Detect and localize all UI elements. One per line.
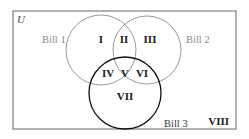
bill-3-label: Bill 3 [164, 118, 188, 129]
region-VI: VI [136, 67, 148, 79]
bill-2-label: Bill 2 [186, 34, 210, 45]
region-VII: VII [117, 90, 134, 102]
region-VIII: VIII [208, 115, 229, 127]
region-III: III [144, 33, 157, 45]
universe-label: U [17, 13, 26, 25]
bill-1-label: Bill 1 [42, 34, 66, 45]
region-II: II [120, 33, 129, 45]
region-V: V [121, 67, 129, 79]
venn-diagram: U Bill 1 Bill 2 Bill 3 I II III IV V VI … [0, 0, 249, 139]
region-IV: IV [102, 67, 114, 79]
region-I: I [99, 33, 103, 45]
